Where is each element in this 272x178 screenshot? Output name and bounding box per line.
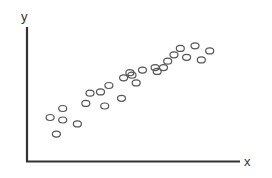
data-point bbox=[139, 67, 147, 73]
data-point bbox=[132, 80, 140, 86]
data-point bbox=[46, 115, 54, 121]
scatter-chart bbox=[0, 0, 272, 178]
y-axis-label: y bbox=[21, 10, 28, 23]
data-point bbox=[97, 89, 105, 95]
data-point bbox=[118, 95, 126, 101]
data-point bbox=[183, 54, 191, 60]
data-point bbox=[197, 57, 205, 63]
data-point bbox=[164, 58, 172, 64]
data-point bbox=[101, 103, 109, 109]
data-point bbox=[105, 83, 113, 89]
data-point bbox=[206, 48, 214, 54]
data-point bbox=[59, 117, 67, 123]
data-point bbox=[151, 65, 159, 71]
data-point bbox=[176, 45, 184, 51]
axes bbox=[26, 27, 240, 162]
data-points bbox=[46, 43, 214, 137]
data-point bbox=[191, 43, 199, 49]
data-point bbox=[120, 75, 128, 81]
data-point bbox=[73, 121, 81, 127]
data-point bbox=[59, 106, 67, 112]
data-point bbox=[160, 65, 168, 71]
x-axis-label: x bbox=[244, 155, 251, 168]
data-point bbox=[170, 52, 178, 58]
data-point bbox=[82, 100, 90, 106]
data-point bbox=[86, 90, 94, 96]
data-point bbox=[52, 131, 60, 137]
